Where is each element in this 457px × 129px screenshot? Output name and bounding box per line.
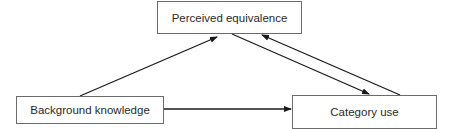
node-label: Background knowledge xyxy=(30,104,150,116)
edge-perceived-to-category xyxy=(232,34,369,94)
edge-category-to-perceived xyxy=(262,35,400,95)
node-perceived-equivalence: Perceived equivalence xyxy=(157,1,302,34)
edge-background-to-perceived xyxy=(80,37,217,96)
node-label: Perceived equivalence xyxy=(172,12,288,24)
node-background-knowledge: Background knowledge xyxy=(16,96,164,124)
node-category-use: Category use xyxy=(292,95,437,129)
node-label: Category use xyxy=(330,106,398,118)
